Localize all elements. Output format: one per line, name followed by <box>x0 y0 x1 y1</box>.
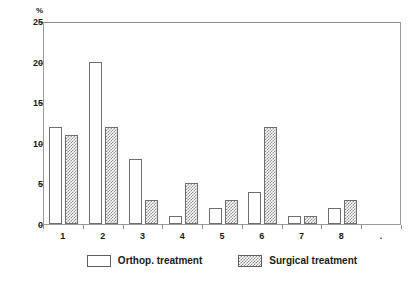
open-square-icon <box>87 255 111 267</box>
y-tick-label: 25 <box>17 18 43 27</box>
x-tick-mark <box>242 225 243 229</box>
y-axis-ticks: 0510152025 <box>8 22 43 225</box>
x-tick-label: 5 <box>212 231 232 241</box>
bar-surgical-cat2 <box>105 127 118 224</box>
x-tick-mark <box>43 225 44 229</box>
y-tick-label: 5 <box>17 180 43 189</box>
plot-area <box>43 22 401 225</box>
x-tick-label: 4 <box>172 231 192 241</box>
bar-orthop-cat4 <box>169 216 182 224</box>
bar-surgical-cat5 <box>225 200 238 224</box>
bar-orthop-cat1 <box>49 127 62 224</box>
bar-orthop-cat3 <box>129 159 142 224</box>
x-tick-mark <box>83 225 84 229</box>
x-axis-ticks: 12345678. <box>43 225 401 245</box>
legend-label: Orthop. treatment <box>118 255 202 267</box>
bar-surgical-cat4 <box>185 183 198 224</box>
y-tick-label: 15 <box>17 99 43 108</box>
bar-orthop-cat6 <box>248 192 261 224</box>
checkered-square-icon <box>238 255 262 267</box>
x-tick-label: 6 <box>252 231 272 241</box>
bar-orthop-cat2 <box>89 62 102 224</box>
legend-entry-orthop[interactable]: Orthop. treatment <box>87 255 202 267</box>
x-tick-mark <box>282 225 283 229</box>
bar-orthop-cat5 <box>209 208 222 224</box>
bar-surgical-cat8 <box>344 200 357 224</box>
x-tick-mark <box>361 225 362 229</box>
x-tick-label: 3 <box>132 231 152 241</box>
bar-orthop-cat7 <box>288 216 301 224</box>
legend-label: Surgical treatment <box>269 255 357 267</box>
y-tick-label: 0 <box>17 221 43 230</box>
legend-entry-surgical[interactable]: Surgical treatment <box>238 255 357 267</box>
bar-orthop-cat8 <box>328 208 341 224</box>
x-tick-label: 2 <box>93 231 113 241</box>
bars-layer <box>44 23 400 224</box>
bar-surgical-cat3 <box>145 200 158 224</box>
bar-surgical-cat7 <box>304 216 317 224</box>
y-axis-unit-label: % <box>36 6 43 16</box>
y-tick-label: 20 <box>17 58 43 67</box>
x-tick-mark <box>321 225 322 229</box>
y-tick-label: 10 <box>17 139 43 148</box>
bar-surgical-cat1 <box>65 135 78 224</box>
x-tick-label: . <box>371 231 391 241</box>
x-tick-mark <box>202 225 203 229</box>
x-tick-mark <box>162 225 163 229</box>
bar-surgical-cat6 <box>264 127 277 224</box>
chart-legend: Orthop. treatmentSurgical treatment <box>43 248 401 274</box>
x-tick-label: 7 <box>292 231 312 241</box>
x-tick-label: 1 <box>53 231 73 241</box>
x-tick-label: 8 <box>331 231 351 241</box>
x-tick-mark <box>401 225 402 229</box>
bar-chart-figure: % 0510152025 12345678. Orthop. treatment… <box>0 0 412 284</box>
x-tick-mark <box>123 225 124 229</box>
